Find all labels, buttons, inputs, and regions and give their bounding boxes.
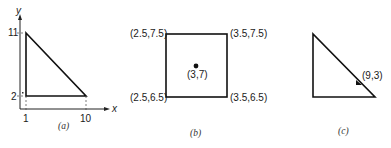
corner-bottom-left: (2.5,6.5) bbox=[130, 92, 167, 103]
panel-a: y x 11 2 1 10 (a) bbox=[8, 5, 118, 132]
y-tick-11: 11 bbox=[8, 27, 19, 38]
center-point-icon bbox=[194, 64, 199, 69]
panel-b: (3,7) (2.5,7.5) (3.5,7.5) (2.5,6.5) (3.5… bbox=[130, 28, 267, 139]
caption-c: (c) bbox=[338, 126, 349, 137]
figure-canvas: y x 11 2 1 10 (a) (3,7) (2.5,7.5) (3.5,7… bbox=[0, 0, 391, 148]
corner-top-left: (2.5,7.5) bbox=[130, 28, 167, 39]
center-label: (3,7) bbox=[187, 69, 208, 80]
x-tick-10: 10 bbox=[80, 113, 92, 124]
caption-a: (a) bbox=[58, 121, 69, 132]
y-axis-label: y bbox=[15, 5, 22, 16]
corner-top-right: (3.5,7.5) bbox=[230, 28, 267, 39]
caption-b: (b) bbox=[190, 128, 201, 139]
y-tick-2: 2 bbox=[11, 91, 17, 102]
triangle-c bbox=[313, 34, 375, 97]
point-label: (9,3) bbox=[362, 70, 383, 81]
x-axis-arrow-icon bbox=[104, 107, 110, 111]
triangle-a bbox=[26, 33, 86, 96]
corner-bottom-right: (3.5,6.5) bbox=[230, 92, 267, 103]
x-axis-label: x bbox=[111, 103, 118, 114]
x-tick-1: 1 bbox=[23, 113, 29, 124]
panel-c: (9,3) (c) bbox=[313, 34, 383, 137]
right-angle-marker bbox=[22, 92, 24, 94]
